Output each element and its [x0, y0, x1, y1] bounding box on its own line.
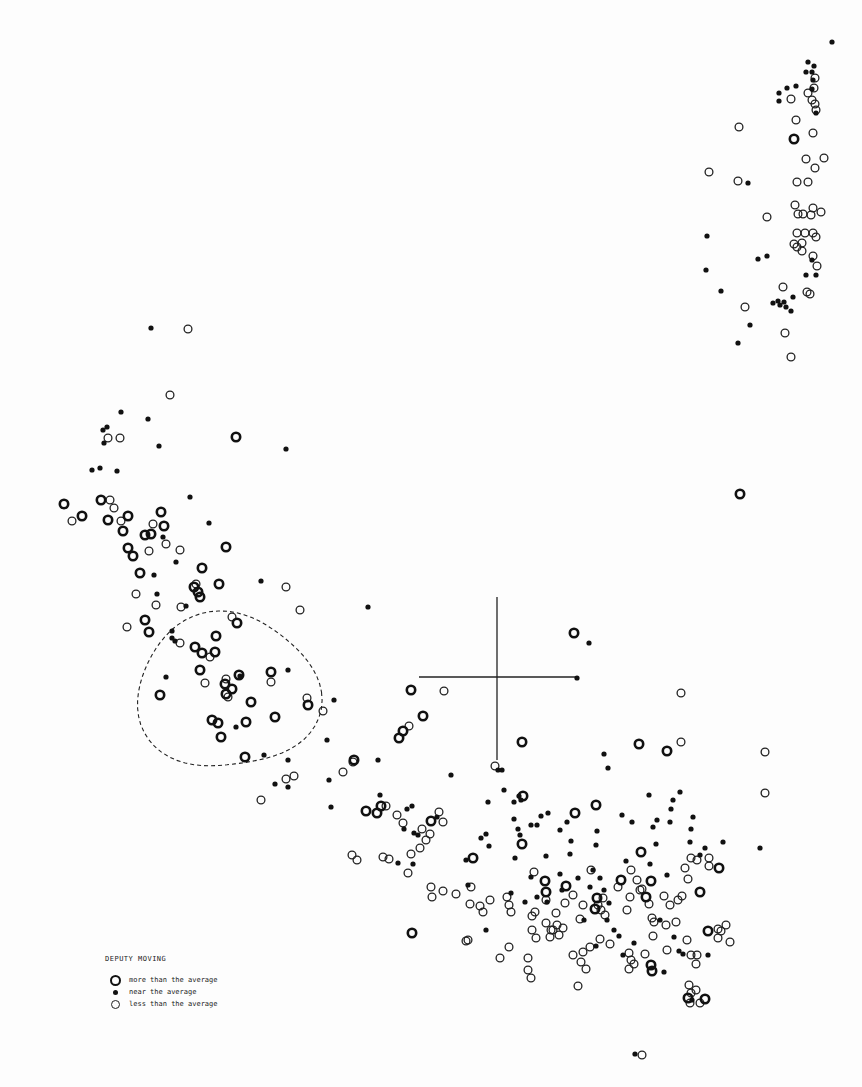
data-point-more — [350, 756, 358, 764]
data-point-near — [448, 772, 453, 777]
data-point-near — [764, 253, 769, 258]
data-point-near — [813, 272, 818, 277]
data-point-near — [702, 845, 707, 850]
data-point-less — [734, 177, 742, 185]
data-point-less — [649, 932, 657, 940]
series-near-average — [89, 39, 834, 1056]
data-point-less — [811, 164, 819, 172]
data-point-near — [89, 467, 94, 472]
data-point-less — [735, 123, 743, 131]
data-point-less — [452, 890, 460, 898]
data-point-more — [215, 580, 223, 588]
data-point-less — [801, 229, 809, 237]
data-point-near — [803, 272, 808, 277]
data-point-more — [648, 967, 656, 975]
data-point-near — [664, 872, 669, 877]
data-point-near — [688, 826, 693, 831]
data-point-less — [792, 116, 800, 124]
data-point-near — [745, 180, 750, 185]
data-point-less — [427, 883, 435, 891]
data-point-more — [642, 893, 650, 901]
data-point-less — [579, 948, 587, 956]
data-point-more — [592, 801, 600, 809]
data-point-more — [469, 854, 477, 862]
series-more-than-average — [60, 135, 798, 1003]
data-point-less — [528, 926, 536, 934]
data-point-near — [169, 628, 174, 633]
data-point-near — [365, 604, 370, 609]
data-point-near — [581, 917, 586, 922]
data-point-less — [282, 775, 290, 783]
data-point-near — [258, 578, 263, 583]
data-point-near — [528, 874, 533, 879]
data-point-near — [586, 640, 591, 645]
data-point-near — [781, 299, 786, 304]
data-point-more — [78, 512, 86, 520]
data-point-near — [512, 855, 517, 860]
data-point-less — [162, 540, 170, 548]
data-point-less — [692, 960, 700, 968]
data-point-near — [173, 559, 178, 564]
data-point-less — [319, 707, 327, 715]
data-point-less — [267, 678, 275, 686]
data-point-more — [104, 516, 112, 524]
legend-label-more: more than the average — [129, 976, 218, 984]
data-point-near — [590, 867, 595, 872]
data-point-less — [416, 844, 424, 852]
data-point-less — [407, 850, 415, 858]
data-point-less — [527, 974, 535, 982]
data-point-near — [620, 952, 625, 957]
data-point-near — [145, 416, 150, 421]
data-point-near — [811, 63, 816, 68]
data-point-less — [798, 239, 806, 247]
data-point-more — [211, 648, 219, 656]
data-point-near — [783, 304, 788, 309]
data-point-near — [619, 812, 624, 817]
data-point-less — [201, 679, 209, 687]
data-point-less — [348, 851, 356, 859]
data-point-more — [684, 994, 692, 1002]
data-point-near — [718, 288, 723, 293]
data-point-less — [296, 606, 304, 614]
data-point-near — [187, 494, 192, 499]
data-point-near — [810, 77, 815, 82]
data-point-near — [704, 233, 709, 238]
data-point-more — [408, 929, 416, 937]
data-point-less — [807, 211, 815, 219]
data-point-near — [501, 787, 506, 792]
data-point-near — [283, 446, 288, 451]
legend-label-less: less than the average — [129, 1000, 218, 1008]
data-point-less — [466, 900, 474, 908]
data-point-near — [534, 894, 539, 899]
data-point-less — [353, 856, 361, 864]
legend-item-less: less than the average — [105, 998, 275, 1010]
data-point-near — [395, 860, 400, 865]
data-point-near — [604, 917, 609, 922]
data-point-near — [543, 853, 548, 858]
thin-ring-icon — [105, 1000, 125, 1009]
filled-dot-icon — [105, 990, 125, 995]
data-point-more — [60, 500, 68, 508]
data-point-near — [206, 520, 211, 525]
data-point-near — [97, 465, 102, 470]
data-point-near — [557, 871, 562, 876]
data-point-near — [793, 83, 798, 88]
data-point-more — [407, 686, 415, 694]
data-point-less — [677, 689, 685, 697]
data-point-less — [761, 748, 769, 756]
data-point-less — [440, 687, 448, 695]
data-point-more — [696, 888, 704, 896]
data-point-more — [242, 718, 250, 726]
data-point-less — [802, 155, 810, 163]
data-point-near — [805, 59, 810, 64]
data-point-more — [570, 629, 578, 637]
data-point-near — [415, 832, 420, 837]
data-point-less — [422, 836, 430, 844]
data-point-more — [790, 135, 798, 143]
data-point-less — [577, 958, 585, 966]
data-point-less — [779, 283, 787, 291]
data-point-less — [524, 966, 532, 974]
data-point-less — [569, 891, 577, 899]
data-point-near — [401, 826, 406, 831]
data-point-more — [233, 619, 241, 627]
